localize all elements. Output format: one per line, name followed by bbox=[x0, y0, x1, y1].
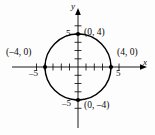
point-marker-top bbox=[76, 32, 80, 36]
y-axis-label: y bbox=[71, 2, 75, 11]
x-tick-label-5: 5 bbox=[116, 69, 121, 78]
point-marker-left bbox=[43, 65, 47, 69]
coordinate-plane-svg bbox=[0, 0, 155, 135]
x-axis-label: x bbox=[143, 58, 147, 67]
point-label-bottom: (0, –4) bbox=[84, 101, 109, 111]
point-marker-bottom bbox=[76, 98, 80, 102]
point-label-right: (4, 0) bbox=[117, 48, 138, 58]
x-tick-label-neg5: –5 bbox=[29, 69, 38, 78]
y-axis-arrow-icon bbox=[75, 8, 81, 15]
y-tick-label-neg5: –5 bbox=[62, 99, 71, 108]
point-label-left: (–4, 0) bbox=[6, 48, 31, 58]
y-tick-label-5: 5 bbox=[66, 29, 71, 38]
circle-graph-figure: y x 5 –5 –5 5 (0, 4) (4, 0) (–4, 0) (0, … bbox=[0, 0, 155, 135]
point-label-top: (0, 4) bbox=[84, 28, 105, 38]
point-marker-right bbox=[109, 65, 113, 69]
